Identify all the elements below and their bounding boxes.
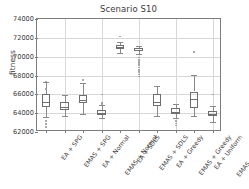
y-tick-mark [35, 76, 38, 77]
whisker-lower-cap [99, 118, 105, 119]
median-line [42, 102, 51, 103]
outlier-point [45, 120, 47, 122]
box-iqr [79, 95, 88, 103]
x-tick-mark [194, 130, 195, 133]
median-line [60, 107, 69, 108]
x-tick-label: EA + SPG [61, 134, 84, 161]
whisker-lower-cap [154, 116, 160, 117]
whisker-lower-cap [210, 122, 216, 123]
box-iqr [42, 94, 51, 107]
whisker-lower-cap [173, 118, 179, 119]
y-tick-label: 72000 [13, 35, 34, 42]
outlier-point [175, 120, 177, 122]
whisker-upper-cap [62, 95, 68, 96]
y-tick-mark [35, 57, 38, 58]
outlier-point [45, 88, 47, 90]
x-tick-mark [102, 130, 103, 133]
y-tick-mark [35, 132, 38, 133]
boxplot-figure: Scenario S10 fitness 6200064000660006800… [0, 0, 249, 189]
y-tick-label: 64000 [13, 110, 34, 117]
outlier-point [193, 51, 195, 53]
whisker-lower-cap [117, 53, 123, 54]
x-tick-mark [46, 130, 47, 133]
y-tick-label: 66000 [13, 91, 34, 98]
y-tick-mark [35, 19, 38, 20]
y-tick-label: 70000 [13, 53, 34, 60]
outlier-point [82, 79, 84, 81]
outlier-point [45, 126, 47, 128]
x-tick-mark [83, 130, 84, 133]
box-iqr [153, 94, 162, 106]
whisker-lower-cap [43, 117, 49, 118]
median-line [208, 114, 217, 115]
outlier-point [175, 125, 177, 127]
whisker-lower [157, 106, 158, 116]
whisker-lower [46, 107, 47, 118]
whisker-upper-cap [80, 83, 86, 84]
median-line [97, 113, 106, 114]
whisker-lower [194, 108, 195, 116]
outlier-point [45, 123, 47, 125]
whisker-upper [157, 86, 158, 94]
x-tick-mark [176, 130, 177, 133]
whisker-lower-cap [191, 116, 197, 117]
y-tick-mark [35, 94, 38, 95]
x-tick-mark [213, 130, 214, 133]
whisker-upper-cap [136, 46, 142, 47]
y-tick-label: 62000 [13, 129, 34, 136]
outlier-point [212, 94, 214, 96]
x-tick-mark [139, 130, 140, 133]
plot-area: 62000640006600068000700007200074000 [36, 18, 221, 131]
whisker-upper-cap [191, 75, 197, 76]
x-tick-mark [65, 130, 66, 133]
whisker-upper-cap [210, 106, 216, 107]
median-line [190, 99, 199, 100]
y-tick-mark [35, 38, 38, 39]
median-line [79, 100, 88, 101]
whisker-upper [83, 83, 84, 95]
median-line [116, 47, 125, 48]
x-tick-mark [120, 130, 121, 133]
y-tick-label: 74000 [13, 16, 34, 23]
whisker-lower-cap [136, 54, 142, 55]
x-tick-mark [157, 130, 158, 133]
y-tick-mark [35, 113, 38, 114]
whisker-upper-cap [173, 104, 179, 105]
chart-title: Scenario S10 [36, 4, 221, 14]
outlier-point [138, 71, 140, 73]
whisker-upper [65, 95, 66, 102]
whisker-upper-cap [154, 86, 160, 87]
outlier-point [101, 94, 103, 96]
whisker-upper-cap [117, 42, 123, 43]
whisker-lower-cap [62, 116, 68, 117]
y-tick-label: 68000 [13, 72, 34, 79]
outlier-point [101, 103, 103, 105]
whisker-lower-cap [80, 114, 86, 115]
whisker-upper [194, 75, 195, 92]
outlier-point [138, 69, 140, 71]
median-line [171, 112, 180, 113]
whisker-lower [83, 103, 84, 113]
outlier-point [138, 76, 140, 78]
median-line [153, 102, 162, 103]
